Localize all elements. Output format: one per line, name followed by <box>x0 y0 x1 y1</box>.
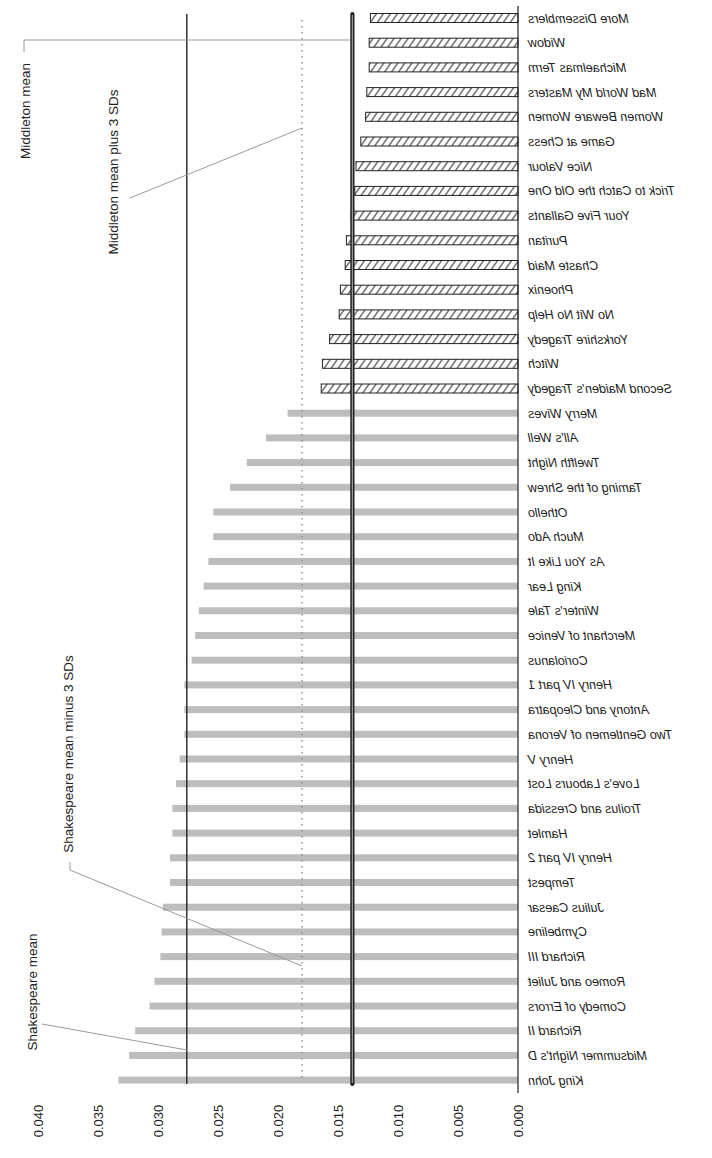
tick-label: 0.025 <box>211 1105 226 1138</box>
bar-shakespeare <box>154 978 518 985</box>
category-label: Richard II <box>527 1024 581 1038</box>
category-label: Richard III <box>527 950 584 964</box>
category-label: More Dissemblers <box>528 12 629 26</box>
category-labels: More DissemblersWidowMichaelmas TermMad … <box>526 12 675 1088</box>
bar-shakespeare <box>208 558 518 565</box>
category-label: Game at Chess <box>528 135 615 149</box>
category-label: Henry IV part 1 <box>528 678 612 692</box>
category-label: All's Well <box>527 431 579 445</box>
category-label: Women Beware Women <box>528 110 664 124</box>
bar-shakespeare <box>213 509 518 516</box>
bar-shakespeare <box>176 780 518 787</box>
bar-shakespeare <box>195 632 518 639</box>
category-label: No Wit No Help <box>528 308 614 322</box>
bar-shakespeare <box>213 533 518 540</box>
tick-label: 0.040 <box>31 1105 46 1138</box>
bar-middleton <box>369 38 518 47</box>
bar-shakespeare <box>180 756 518 763</box>
category-label: Taming of the Shrew <box>527 481 642 495</box>
category-label: Henry V <box>526 753 573 767</box>
category-label: Trick to Catch the Old One <box>528 184 675 198</box>
bar-shakespeare <box>204 583 518 590</box>
bar-middleton <box>330 335 518 344</box>
tick-label: 0.035 <box>91 1105 106 1138</box>
bar-shakespeare <box>247 459 518 466</box>
tick-label: 0.005 <box>451 1105 466 1138</box>
annotations: Middleton meanMiddleton mean plus 3 SDsS… <box>18 40 350 1051</box>
category-label: Othello <box>528 506 568 520</box>
annotation-shakespeare-minus-3sd: Shakespeare mean minus 3 SDs <box>61 655 76 853</box>
annotation-shakespeare-mean: Shakespeare mean <box>25 933 40 1050</box>
category-label: Phoenix <box>527 283 573 297</box>
category-label: Merchant of Venice <box>528 629 635 643</box>
bar-shakespeare <box>172 805 518 812</box>
category-label: Witch <box>528 357 559 371</box>
annotation-middleton-plus-3sd: Middleton mean plus 3 SDs <box>106 89 121 254</box>
category-label: Romeo and Juliet <box>527 975 625 989</box>
category-label: Puritan <box>528 234 568 248</box>
bar-middleton <box>361 137 518 146</box>
bar-chart: More DissemblersWidowMichaelmas TermMad … <box>0 0 712 1158</box>
category-label: Troilus and Cressida <box>528 802 642 816</box>
category-label: Coriolanus <box>528 654 588 668</box>
category-label: Your Five Gallants <box>528 209 630 223</box>
tick-label: 0.015 <box>331 1105 346 1138</box>
category-label: Comedy of Errors <box>528 1000 626 1014</box>
tick-label: 0.030 <box>151 1105 166 1138</box>
bar-middleton <box>366 112 518 121</box>
category-label: Michaelmas Term <box>528 61 626 75</box>
bar-shakespeare <box>162 928 518 935</box>
bar-middleton <box>345 261 518 270</box>
bar-shakespeare <box>160 953 518 960</box>
bar-shakespeare <box>230 484 518 491</box>
category-label: As You Like It <box>527 555 605 569</box>
category-label: Henry IV part 2 <box>528 851 612 865</box>
category-label: Nice Valour <box>527 160 592 174</box>
category-label: Merry Wives <box>528 407 597 421</box>
category-label: Cymbeline <box>528 925 587 939</box>
bar-shakespeare <box>172 830 518 837</box>
bar-shakespeare <box>170 879 518 886</box>
category-label: Second Maiden's Tragedy <box>527 382 672 396</box>
tick-label: 0.000 <box>511 1105 526 1138</box>
bars-layer <box>118 14 518 1084</box>
category-label: Love's Labours Lost <box>527 777 639 791</box>
bar-shakespeare <box>266 434 518 441</box>
bar-shakespeare <box>192 657 518 664</box>
category-label: Chaste Maid <box>527 259 598 273</box>
category-label: Tempest <box>527 876 575 890</box>
category-label: Yorkshire Tragedy <box>527 333 628 347</box>
tick-label: 0.020 <box>271 1105 286 1138</box>
bar-shakespeare <box>129 1052 518 1059</box>
category-label: Antony and Cleopatra <box>528 703 650 717</box>
bar-shakespeare <box>163 904 518 911</box>
bar-middleton <box>346 236 518 245</box>
category-label: Widow <box>527 36 565 50</box>
bar-middleton <box>351 211 518 220</box>
bar-middleton <box>356 162 518 171</box>
category-label: Twelfth Night <box>527 456 600 470</box>
category-label: Much Ado <box>528 530 584 544</box>
bar-shakespeare <box>135 1027 518 1034</box>
category-label: Midsummer Night's D <box>528 1049 647 1063</box>
bar-shakespeare <box>199 607 518 614</box>
category-label: King John <box>528 1074 584 1088</box>
category-label: Winter's Tale <box>528 604 599 618</box>
category-label: Mad World My Masters <box>528 86 657 100</box>
bar-shakespeare <box>288 410 518 417</box>
tick-label: 0.010 <box>391 1105 406 1138</box>
bar-middleton <box>370 14 518 23</box>
reference-lines <box>187 14 353 1084</box>
leader-shakespeare-minus-3sd <box>70 862 302 966</box>
bar-middleton <box>367 88 518 97</box>
annotation-middleton-mean: Middleton mean <box>18 63 33 159</box>
bar-shakespeare <box>150 1003 518 1010</box>
bar-middleton <box>369 63 518 72</box>
bar-shakespeare <box>170 854 518 861</box>
bar-shakespeare <box>118 1077 518 1084</box>
category-label: Two Gentlemen of Verona <box>528 728 673 742</box>
category-label: Hamlet <box>527 827 567 841</box>
bar-middleton <box>355 186 518 195</box>
leader-middleton-plus-3sd <box>130 128 302 198</box>
bar-middleton <box>340 285 518 294</box>
